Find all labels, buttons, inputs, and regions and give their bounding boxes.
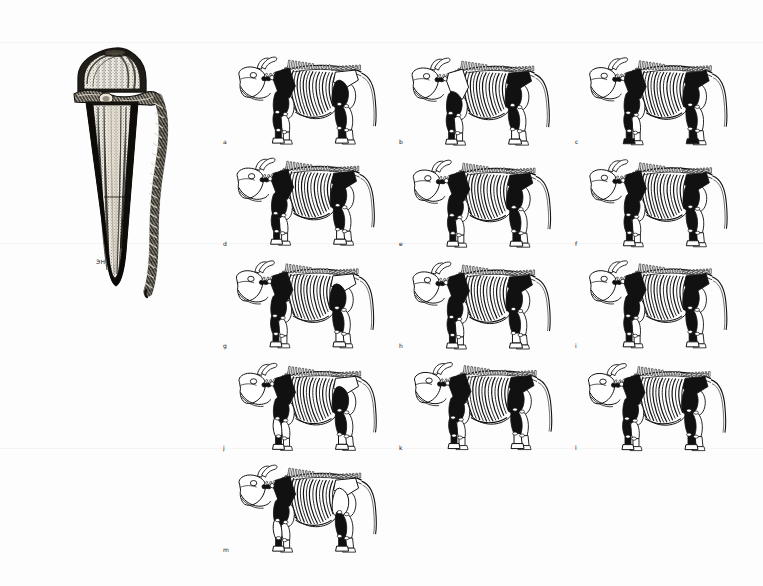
panel-label: d xyxy=(223,241,227,247)
bone-phalanges xyxy=(273,546,349,551)
skeleton-panel-i: i xyxy=(574,250,750,350)
bone-phalanges xyxy=(446,343,522,348)
skeleton-panel-k: k xyxy=(398,352,574,452)
skeleton-row: j k l xyxy=(222,352,752,452)
panel-label: h xyxy=(399,343,403,349)
skeleton-panel-j: j xyxy=(222,352,398,452)
panel-label: e xyxy=(399,241,403,247)
panel-label: g xyxy=(223,343,227,349)
bone-phalanges xyxy=(273,444,349,449)
bone-phalanges xyxy=(271,239,347,244)
skeleton-panel-grid: a b c d e f g h xyxy=(222,46,752,566)
artifact-illustration xyxy=(60,40,190,320)
bone-phalanges xyxy=(270,342,346,347)
skeleton-panel-e: e xyxy=(398,148,574,248)
skeleton-panel-b: b xyxy=(398,46,574,146)
bone-phalanges xyxy=(447,241,523,246)
panel-label: a xyxy=(223,139,227,145)
bone-phalanges xyxy=(623,241,699,246)
bone-phalanges xyxy=(623,342,699,347)
bone-phalanges xyxy=(446,139,522,144)
bone-phalanges xyxy=(448,444,524,449)
artifact-caption: ЭН xyxy=(96,258,105,265)
panel-label: l xyxy=(575,445,577,451)
skeleton-panel-empty-2 xyxy=(574,454,750,554)
skeleton-row: g h i xyxy=(222,250,752,350)
skeleton-row: m xyxy=(222,454,752,554)
artifact-cord xyxy=(145,98,164,297)
skeleton-panel-f: f xyxy=(574,148,750,248)
skeleton-panel-m: m xyxy=(222,454,398,554)
artifact-shaft xyxy=(86,102,138,286)
skeleton-panel-a: a xyxy=(222,46,398,146)
panel-label: c xyxy=(575,139,578,145)
skeleton-panel-empty-1 xyxy=(398,454,574,554)
panel-label: j xyxy=(223,445,225,451)
bone-phalanges xyxy=(622,445,698,450)
skeleton-panel-h: h xyxy=(398,250,574,350)
panel-label: f xyxy=(575,241,577,247)
skeleton-row: d e f xyxy=(222,148,752,248)
bone-phalanges xyxy=(272,138,348,143)
panel-label: b xyxy=(399,139,403,145)
skeleton-row: a b c xyxy=(222,46,752,146)
bone-phalanges xyxy=(623,139,699,144)
panel-label: i xyxy=(575,343,577,349)
skeleton-panel-g: g xyxy=(222,250,398,350)
skeleton-panel-c: c xyxy=(574,46,750,146)
panel-label: m xyxy=(223,547,229,553)
skeleton-panel-l: l xyxy=(574,352,750,452)
skeleton-panel-d: d xyxy=(222,148,398,248)
panel-label: k xyxy=(399,445,402,451)
artifact-head xyxy=(78,48,146,92)
